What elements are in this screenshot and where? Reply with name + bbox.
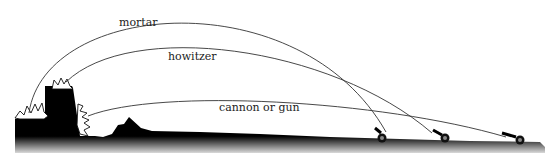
trajectory-diagram: mortar howitzer cannon or gun: [0, 0, 551, 165]
explosion-side-icon: [77, 104, 90, 136]
explosion-wall-icon: [15, 103, 48, 119]
terrain: [15, 86, 545, 153]
explosion-tower-icon: [52, 78, 73, 89]
cannon-label: cannon or gun: [219, 101, 300, 114]
mortar-label: mortar: [119, 16, 158, 29]
howitzer-trajectory: [66, 48, 432, 133]
howitzer-label: howitzer: [168, 50, 217, 63]
